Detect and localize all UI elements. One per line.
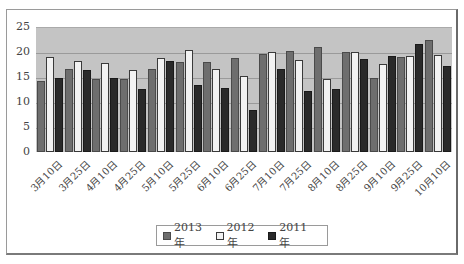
bar	[166, 61, 174, 153]
y-tick-label: 20	[0, 46, 30, 57]
bar	[351, 52, 359, 152]
bar	[360, 59, 368, 152]
bar	[370, 78, 378, 152]
bar	[110, 78, 118, 153]
bar	[388, 56, 396, 153]
bar	[148, 69, 156, 153]
bar	[65, 69, 73, 153]
legend-item-2013: 2013 年	[163, 221, 216, 250]
bar	[295, 60, 303, 153]
bar	[406, 56, 414, 152]
bar	[194, 85, 202, 153]
bar	[176, 62, 184, 152]
bar	[314, 47, 322, 153]
bar	[129, 70, 137, 152]
bar	[286, 51, 294, 153]
bar	[92, 79, 100, 152]
bar	[185, 50, 193, 152]
bar	[342, 52, 350, 152]
bar	[203, 62, 211, 152]
bar	[231, 58, 239, 152]
legend-label-2013: 2013 年	[174, 221, 216, 250]
bar	[37, 81, 45, 153]
bar	[74, 61, 82, 153]
legend-label-2011: 2011 年	[279, 221, 321, 250]
bar	[443, 66, 451, 153]
bar	[425, 40, 433, 152]
legend-swatch-2012	[216, 232, 224, 240]
bar	[323, 79, 331, 152]
bar	[379, 64, 387, 152]
legend-item-2011: 2011 年	[268, 221, 321, 250]
plot-area	[36, 27, 452, 152]
legend-swatch-2011	[268, 232, 276, 240]
bar	[221, 88, 229, 152]
bar	[46, 57, 54, 152]
bar	[434, 55, 442, 152]
bar	[120, 79, 128, 152]
y-tick-label: 25	[0, 21, 30, 32]
bar	[212, 69, 220, 153]
gridline	[36, 53, 452, 54]
legend-swatch-2013	[163, 232, 171, 240]
bar	[277, 69, 285, 153]
legend: 2013 年 2012 年 2011 年	[156, 225, 328, 246]
bar	[101, 63, 109, 153]
y-tick-label: 0	[0, 146, 30, 157]
bar	[415, 44, 423, 152]
bar	[138, 89, 146, 153]
legend-label-2012: 2012 年	[227, 221, 269, 250]
bar	[55, 78, 63, 153]
bar	[304, 91, 312, 152]
bar	[249, 110, 257, 152]
bar	[83, 70, 91, 152]
bar	[268, 52, 276, 152]
y-tick-label: 10	[0, 96, 30, 107]
bar	[259, 54, 267, 152]
y-tick-label: 5	[0, 121, 30, 132]
bar	[240, 76, 248, 153]
bar	[332, 89, 340, 153]
legend-item-2012: 2012 年	[216, 221, 269, 250]
y-tick-label: 15	[0, 71, 30, 82]
bar	[397, 57, 405, 152]
bar	[157, 58, 165, 152]
